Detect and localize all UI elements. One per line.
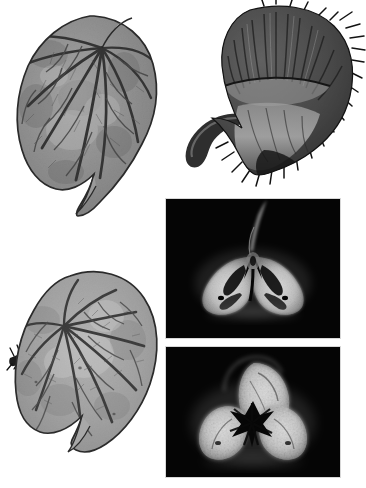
section-upper-basal-glow [207,307,299,319]
panel-section-upper [166,199,340,338]
leaf-abaxial-lamina [2,250,172,476]
panel-section-lower [166,347,340,477]
fruit-capsule-drawing [172,0,366,200]
section-upper-drawing [166,199,340,338]
panel-leaf-abaxial [2,250,172,476]
figure-plate [0,0,366,488]
panel-fruit-capsule-whole [172,0,366,200]
leaf-adaxial-drawing [6,2,174,232]
section-lower-drawing [166,347,340,477]
section-lower-basal-glow [203,455,303,467]
panel-leaf-adaxial [6,2,174,232]
leaf-abaxial-drawing [2,250,172,476]
